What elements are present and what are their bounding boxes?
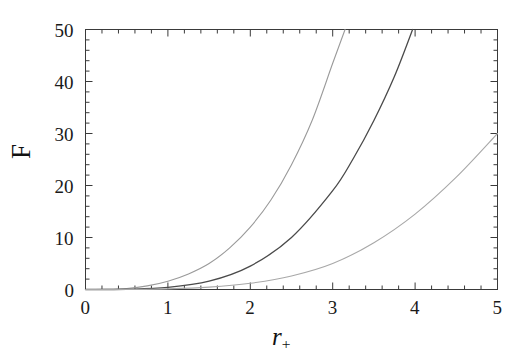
- x-tick-label: 1: [163, 298, 173, 317]
- plot-frame: [86, 30, 498, 290]
- y-axis-label: F: [8, 144, 35, 159]
- chart-figure: 012345 01020304050 F r+: [0, 0, 526, 364]
- y-tick-label: 0: [65, 281, 75, 300]
- y-tick-label: 10: [55, 229, 74, 248]
- x-axis-label-base: r: [272, 323, 282, 350]
- x-tick-label: 5: [493, 298, 503, 317]
- plot-canvas: [0, 0, 526, 364]
- x-tick-label: 4: [410, 298, 420, 317]
- x-tick-label: 0: [81, 298, 91, 317]
- y-tick-label: 20: [55, 177, 74, 196]
- y-tick-label: 40: [55, 73, 74, 92]
- x-axis-label: r+: [272, 324, 290, 351]
- y-tick-label: 30: [55, 125, 74, 144]
- series-line-curve-3: [86, 134, 498, 290]
- x-axis-label-subscript: +: [282, 335, 291, 352]
- series-line-curve-2: [86, 30, 413, 290]
- axis-ticks: [86, 30, 498, 290]
- y-tick-label: 50: [55, 21, 74, 40]
- x-tick-label: 2: [245, 298, 255, 317]
- series-line-curve-1: [86, 30, 346, 290]
- x-tick-label: 3: [328, 298, 338, 317]
- frame-rect: [86, 30, 498, 290]
- data-series: [86, 30, 498, 290]
